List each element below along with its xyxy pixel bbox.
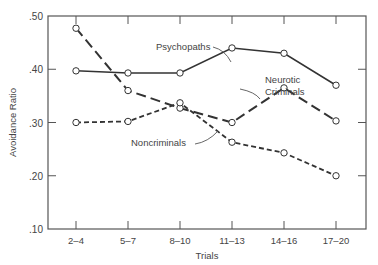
y-axis-title: Avoidance Ratio (7, 88, 18, 157)
data-point (177, 100, 183, 106)
data-point (73, 119, 79, 125)
data-point (125, 87, 131, 93)
data-point (125, 70, 131, 76)
y-tick-label: .20 (29, 171, 43, 182)
y-tick-label: .40 (29, 64, 43, 75)
series-annotation: Neurotic (265, 74, 301, 85)
x-tick-label: 14–16 (271, 235, 297, 246)
y-tick-label: .10 (29, 224, 43, 235)
line-chart: .10.20.30.40.502–45–78–1011–1314–1617–20… (0, 0, 378, 265)
data-point (177, 70, 183, 76)
data-point (281, 150, 287, 156)
data-point (281, 50, 287, 56)
series-annotation: Noncriminals (131, 137, 186, 148)
x-tick-label: 11–13 (219, 235, 245, 246)
x-tick-label: 8–10 (169, 235, 190, 246)
y-tick-label: .50 (29, 11, 43, 22)
data-point (333, 82, 339, 88)
x-tick-label: 5–7 (120, 235, 136, 246)
noncriminals-arrow (195, 131, 218, 144)
data-point (229, 45, 235, 51)
x-tick-label: 2–4 (68, 235, 84, 246)
data-point (125, 118, 131, 124)
data-point (73, 25, 79, 31)
x-axis-title: Trials (196, 250, 219, 261)
series-annotation: Criminals (265, 86, 305, 97)
x-tick-label: 17–20 (323, 235, 349, 246)
data-point (229, 139, 235, 145)
data-point (229, 119, 235, 125)
y-tick-label: .30 (29, 118, 43, 129)
data-point (333, 118, 339, 124)
data-point (73, 68, 79, 74)
series-annotation: Psychopaths (156, 41, 211, 52)
neurotic-arrow (240, 89, 260, 99)
series-line (76, 103, 336, 176)
data-point (333, 173, 339, 179)
